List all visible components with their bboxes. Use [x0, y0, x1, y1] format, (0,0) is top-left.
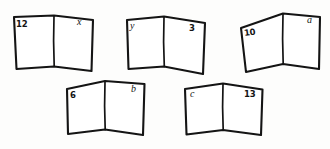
book-5-right-page-label: 13 [244, 90, 255, 99]
book-1-left-page-label: 12 [16, 20, 27, 29]
book-3-left-page-label: 10 [243, 27, 256, 37]
book-3-fold-line [283, 14, 284, 64]
book-2-fold-line [164, 17, 165, 67]
book-1-right-page-label: x [77, 17, 81, 27]
book-4-fold-line [105, 82, 106, 130]
book-2-left-page-label: y [130, 21, 134, 31]
book-4-right-page-label: b [131, 84, 136, 94]
book-5-fold-line [223, 84, 224, 130]
book-4-left-page-label: 6 [70, 91, 76, 100]
book-1[interactable]: 12 x [11, 11, 97, 75]
book-2[interactable]: y 3 [124, 12, 208, 78]
book-4[interactable]: 6 b [64, 78, 148, 140]
worksheet-canvas: 12 x y 3 10 a 6 b c 13 [0, 0, 330, 149]
book-3-right-page-label: a [307, 15, 312, 25]
book-1-fold-line [54, 16, 55, 66]
book-2-right-page-label: 3 [189, 24, 195, 33]
book-5[interactable]: c 13 [182, 81, 266, 141]
book-5-left-page-label: c [190, 89, 194, 99]
book-3[interactable]: 10 a [238, 10, 324, 78]
